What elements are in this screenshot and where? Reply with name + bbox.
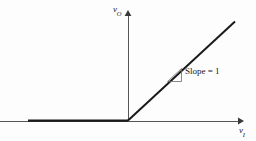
x-axis-arrowhead: [238, 118, 244, 125]
x-axis-label: vI: [239, 126, 245, 137]
y-axis: [125, 10, 132, 121]
x-axis-label-subscript: I: [243, 131, 245, 138]
slope-triangle-marker: [168, 69, 182, 82]
y-axis-arrowhead: [125, 10, 132, 16]
transfer-characteristic-figure: vO vI Slope = 1: [0, 0, 256, 141]
y-axis-label: vO: [113, 5, 122, 16]
slope-annotation-label: Slope = 1: [185, 67, 220, 76]
y-axis-label-subscript: O: [117, 10, 122, 17]
